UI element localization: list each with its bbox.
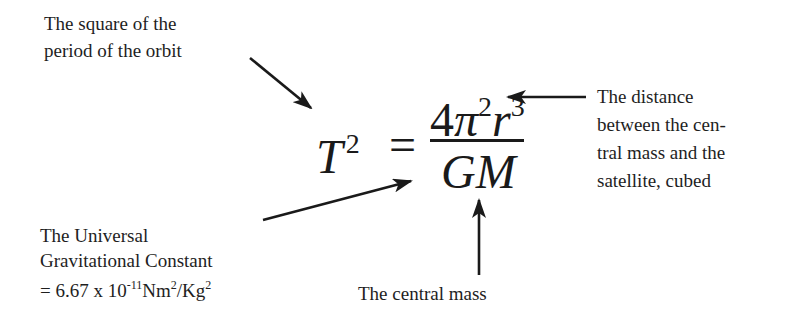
radius-exponent: 3 — [511, 91, 525, 122]
constant-value: = 6.67 x 10-11Nm2/Kg2 — [40, 273, 213, 303]
arrow-to-g — [263, 181, 411, 220]
label-line: The Universal — [40, 223, 213, 248]
constant-mantissa: = 6.67 x 10 — [40, 280, 127, 301]
label-line: between the cen- — [597, 111, 726, 139]
label-line: The distance — [597, 83, 726, 111]
label-central-mass: The central mass — [358, 280, 487, 307]
period-exponent: 2 — [346, 128, 360, 159]
fraction-bar — [430, 139, 524, 142]
equals-sign: = — [389, 121, 416, 169]
label-line: period of the orbit — [44, 37, 182, 64]
constant-exponent: -11 — [127, 278, 143, 292]
unit-kg: /Kg — [177, 280, 206, 301]
equation-numerator: 4π2r3 — [430, 83, 525, 144]
equation-denominator: GM — [441, 148, 516, 196]
label-line: Gravitational Constant — [40, 248, 213, 273]
arrow-to-t-squared — [250, 58, 311, 108]
label-gravitational-constant: The Universal Gravitational Constant = 6… — [40, 223, 213, 303]
unit-nm: Nm — [142, 280, 171, 301]
unit-kg-exponent: 2 — [205, 278, 211, 292]
pi-exponent: 2 — [478, 91, 492, 122]
label-line: tral mass and the — [597, 139, 726, 167]
label-distance-cubed: The distance between the cen- tral mass … — [597, 83, 726, 195]
equation-lhs: T2 — [316, 120, 360, 181]
label-line: The square of the — [44, 10, 182, 37]
label-line: satellite, cubed — [597, 167, 726, 195]
label-period-squared: The square of the period of the orbit — [44, 10, 182, 64]
period-symbol: T — [316, 130, 343, 183]
